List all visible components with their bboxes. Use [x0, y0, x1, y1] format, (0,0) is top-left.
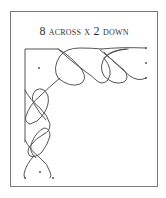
left-connector: [25, 90, 50, 134]
grid-dot: [52, 177, 54, 179]
grid-dot: [145, 62, 147, 64]
grid-dot: [39, 171, 41, 173]
outer-corner-line: [25, 49, 58, 142]
grid-dots: [24, 47, 147, 179]
knotwork-diagram: [0, 0, 166, 198]
left-crossing-2: [25, 140, 51, 178]
grid-dot: [145, 77, 147, 79]
left-loop-1: [26, 89, 49, 124]
grid-dot: [24, 177, 26, 179]
corner-diagonal: [40, 78, 60, 96]
grid-dot: [38, 67, 40, 69]
top-loop-2: [100, 49, 127, 83]
knot-lines: [24, 48, 146, 178]
left-bottom-tail: [24, 156, 34, 178]
grid-dot: [145, 47, 147, 49]
